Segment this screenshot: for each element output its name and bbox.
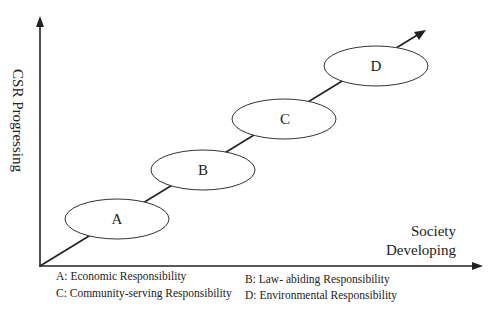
y-axis-arrow-icon [36,16,44,27]
x-axis-label-line2: Developing [386,241,456,260]
svg-text:B: B [198,162,208,178]
progression-arrow-icon [414,30,426,40]
y-axis-label: CSR Progressing [2,40,32,200]
svg-text:C: C [280,111,290,127]
legend-item-d: D: Environmental Responsibility [245,289,397,301]
y-axis-label-text: CSR Progressing [9,69,26,172]
x-axis-arrow-icon [472,262,483,270]
stage-d: D [324,46,428,86]
x-axis-label: Society Developing [386,222,456,260]
x-axis-label-line1: Society [386,222,456,241]
stage-a: A [65,199,169,239]
csr-diagram: A B C D [0,0,501,310]
legend-item-c: C: Community-serving Responsibility [56,287,232,299]
svg-text:D: D [371,58,382,74]
stage-b: B [151,150,255,190]
stage-c: C [232,99,336,139]
legend-item-b: B: Law- abiding Responsibility [245,273,390,285]
legend-item-a: A: Economic Responsibility [56,270,186,282]
svg-text:A: A [112,211,123,227]
